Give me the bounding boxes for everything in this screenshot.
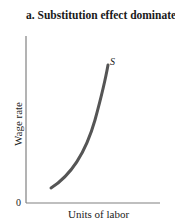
origin-label: 0	[16, 197, 21, 208]
supply-curve	[51, 65, 108, 188]
plot-area	[0, 0, 175, 224]
y-axis-label: Wage rate	[12, 94, 24, 154]
curve-label-s: S	[110, 56, 115, 67]
x-axis-label: Units of labor	[68, 208, 129, 220]
